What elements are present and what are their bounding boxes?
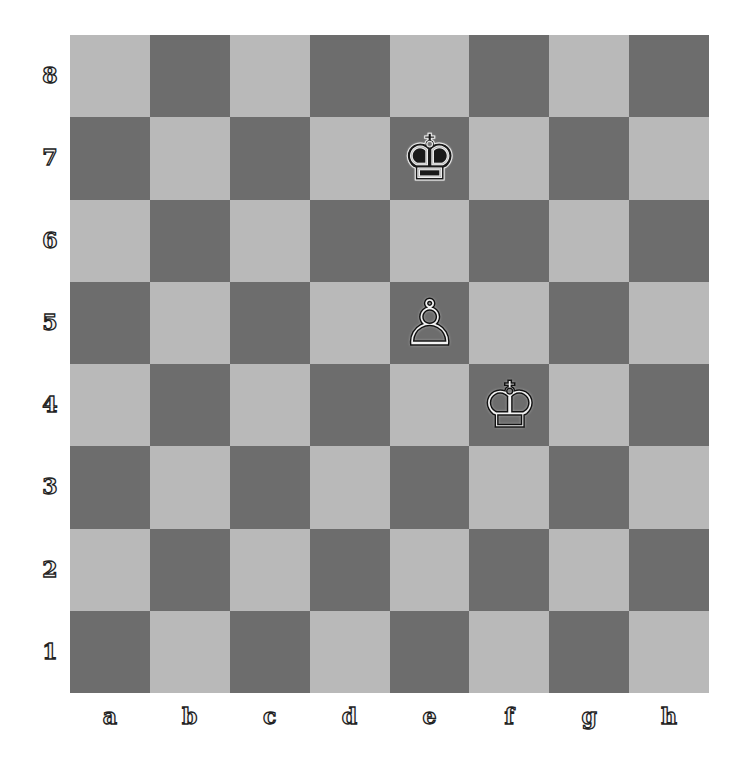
file-label-e: e	[414, 703, 444, 729]
chess-board[interactable]: ♚♙♔	[70, 35, 709, 693]
square-e7[interactable]: ♚	[390, 117, 470, 199]
square-d1[interactable]	[310, 611, 390, 693]
file-label-f: f	[494, 703, 524, 729]
square-f8[interactable]	[469, 35, 549, 117]
square-e3[interactable]	[390, 446, 470, 528]
square-f5[interactable]	[469, 282, 549, 364]
square-f2[interactable]	[469, 529, 549, 611]
square-h6[interactable]	[629, 200, 709, 282]
file-label-b: b	[175, 703, 205, 729]
square-g1[interactable]	[549, 611, 629, 693]
square-f1[interactable]	[469, 611, 549, 693]
file-label-g: g	[574, 703, 604, 729]
square-a3[interactable]	[70, 446, 150, 528]
rank-label-6: 6	[38, 227, 62, 253]
square-e5[interactable]: ♙	[390, 282, 470, 364]
square-a4[interactable]	[70, 364, 150, 446]
square-g8[interactable]	[549, 35, 629, 117]
rank-label-4: 4	[38, 391, 62, 417]
square-h4[interactable]	[629, 364, 709, 446]
square-a6[interactable]	[70, 200, 150, 282]
square-f6[interactable]	[469, 200, 549, 282]
square-a5[interactable]	[70, 282, 150, 364]
square-h2[interactable]	[629, 529, 709, 611]
square-a7[interactable]	[70, 117, 150, 199]
square-b7[interactable]	[150, 117, 230, 199]
black-king-icon[interactable]: ♚	[401, 126, 458, 190]
square-g2[interactable]	[549, 529, 629, 611]
rank-label-2: 2	[38, 556, 62, 582]
square-b5[interactable]	[150, 282, 230, 364]
square-a1[interactable]	[70, 611, 150, 693]
square-b2[interactable]	[150, 529, 230, 611]
square-a2[interactable]	[70, 529, 150, 611]
square-g7[interactable]	[549, 117, 629, 199]
rank-label-8: 8	[38, 62, 62, 88]
file-label-h: h	[654, 703, 684, 729]
square-c5[interactable]	[230, 282, 310, 364]
rank-label-5: 5	[38, 309, 62, 335]
square-c8[interactable]	[230, 35, 310, 117]
square-g5[interactable]	[549, 282, 629, 364]
square-h3[interactable]	[629, 446, 709, 528]
square-d4[interactable]	[310, 364, 390, 446]
square-b3[interactable]	[150, 446, 230, 528]
square-d8[interactable]	[310, 35, 390, 117]
square-b8[interactable]	[150, 35, 230, 117]
white-pawn-icon[interactable]: ♙	[401, 291, 458, 355]
file-label-d: d	[335, 703, 365, 729]
square-b4[interactable]	[150, 364, 230, 446]
square-b1[interactable]	[150, 611, 230, 693]
square-d7[interactable]	[310, 117, 390, 199]
file-label-a: a	[95, 703, 125, 729]
square-d6[interactable]	[310, 200, 390, 282]
square-b6[interactable]	[150, 200, 230, 282]
rank-label-7: 7	[38, 144, 62, 170]
square-e8[interactable]	[390, 35, 470, 117]
square-d3[interactable]	[310, 446, 390, 528]
square-c2[interactable]	[230, 529, 310, 611]
square-e6[interactable]	[390, 200, 470, 282]
square-h8[interactable]	[629, 35, 709, 117]
square-c3[interactable]	[230, 446, 310, 528]
rank-label-1: 1	[38, 638, 62, 664]
square-g6[interactable]	[549, 200, 629, 282]
square-h1[interactable]	[629, 611, 709, 693]
square-g3[interactable]	[549, 446, 629, 528]
square-c6[interactable]	[230, 200, 310, 282]
square-d2[interactable]	[310, 529, 390, 611]
square-f3[interactable]	[469, 446, 549, 528]
square-c4[interactable]	[230, 364, 310, 446]
square-e4[interactable]	[390, 364, 470, 446]
square-a8[interactable]	[70, 35, 150, 117]
white-king-icon[interactable]: ♔	[481, 373, 538, 437]
square-f7[interactable]	[469, 117, 549, 199]
square-e1[interactable]	[390, 611, 470, 693]
rank-label-3: 3	[38, 473, 62, 499]
square-h5[interactable]	[629, 282, 709, 364]
square-h7[interactable]	[629, 117, 709, 199]
square-e2[interactable]	[390, 529, 470, 611]
square-c7[interactable]	[230, 117, 310, 199]
square-d5[interactable]	[310, 282, 390, 364]
square-f4[interactable]: ♔	[469, 364, 549, 446]
square-c1[interactable]	[230, 611, 310, 693]
square-g4[interactable]	[549, 364, 629, 446]
file-label-c: c	[255, 703, 285, 729]
